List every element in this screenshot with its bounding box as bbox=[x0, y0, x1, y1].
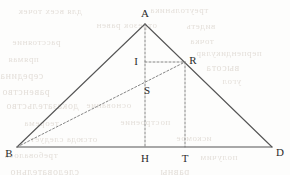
geometry-figure: для всех точектреугольникаотрезок равенв… bbox=[0, 0, 290, 175]
segment-AD bbox=[145, 24, 272, 147]
point-label-T: T bbox=[182, 153, 189, 164]
point-label-I: I bbox=[134, 56, 138, 67]
segment-AB bbox=[17, 24, 145, 147]
point-label-S: S bbox=[144, 85, 150, 96]
point-label-H: H bbox=[141, 153, 149, 164]
point-label-D: D bbox=[276, 147, 284, 158]
point-label-R: R bbox=[189, 55, 196, 66]
segment-BR bbox=[17, 62, 185, 147]
point-label-B: B bbox=[5, 148, 12, 159]
point-label-A: A bbox=[141, 8, 149, 19]
